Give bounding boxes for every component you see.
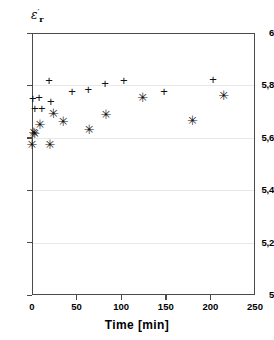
figure: ε′r 55,25,45,65,86 050100150200250 +++++… <box>0 0 274 340</box>
data-point-plus: + <box>84 82 92 95</box>
y-axis-tick <box>27 190 32 191</box>
x-axis-tick-label: 250 <box>235 302 274 312</box>
data-point-star: ✳ <box>84 122 95 135</box>
x-axis-tick-label: 150 <box>146 302 186 312</box>
data-point-plus: + <box>38 102 46 115</box>
gridline <box>33 243 254 244</box>
x-axis-tick-label: 200 <box>190 302 230 312</box>
y-axis-tick <box>27 85 32 86</box>
y-axis-tick <box>27 242 32 243</box>
y-axis-tick-label: 6 <box>248 28 274 38</box>
gridline <box>33 190 254 191</box>
data-point-plus: + <box>101 77 109 90</box>
x-axis-tick <box>165 295 166 300</box>
y-axis-tick-label: 5 <box>248 290 274 300</box>
data-point-star: ✳ <box>218 89 229 102</box>
x-axis-tick <box>121 295 122 300</box>
data-point-star: ✳ <box>137 91 148 104</box>
x-axis-tick <box>76 295 77 300</box>
data-point-star: ✳ <box>58 115 69 128</box>
data-point-plus: + <box>160 85 168 98</box>
y-axis-tick <box>27 295 32 296</box>
data-point-plus: + <box>209 72 217 85</box>
data-point-plus: + <box>45 73 53 86</box>
y-axis-tick-label: 5,2 <box>248 238 274 248</box>
data-point-star: ✳ <box>101 107 112 120</box>
y-axis-tick-label: 5,4 <box>248 185 274 195</box>
data-point-star: ✳ <box>187 113 198 126</box>
x-axis-tick-label: 0 <box>12 302 52 312</box>
data-point-star: ✳ <box>44 138 55 151</box>
gridline <box>33 85 254 86</box>
plot-area <box>32 33 255 295</box>
gridline <box>33 138 254 139</box>
x-axis-tick-label: 50 <box>57 302 97 312</box>
y-axis-tick-label: 5,8 <box>248 80 274 90</box>
y-axis-tick-label: 5,6 <box>248 133 274 143</box>
y-axis-title: ε′r <box>31 7 44 24</box>
data-point-plus: + <box>120 74 128 87</box>
data-point-star: ✳ <box>35 118 46 131</box>
x-axis-tick-label: 100 <box>101 302 141 312</box>
x-axis-title: Time [min] <box>0 318 274 332</box>
x-axis-tick <box>210 295 211 300</box>
y-axis-tick <box>27 33 32 34</box>
data-point-plus: + <box>68 84 76 97</box>
